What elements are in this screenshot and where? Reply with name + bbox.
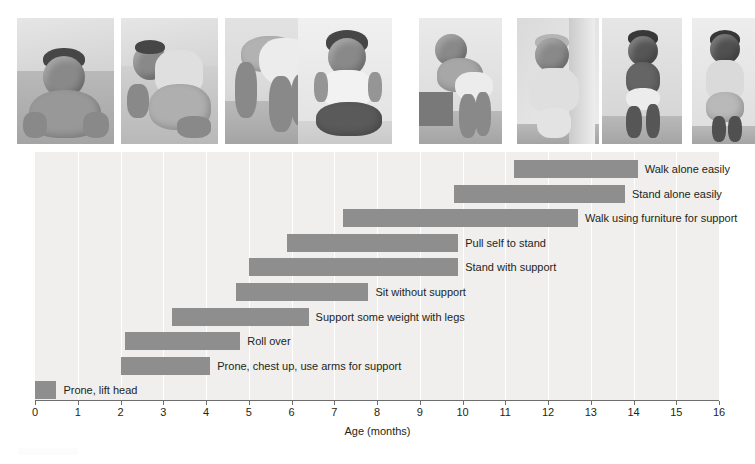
photo-roll-over — [121, 18, 218, 144]
milestone-label: Walk using furniture for support — [585, 210, 737, 226]
x-tick-label-10: 10 — [448, 406, 478, 418]
x-tick-label-13: 13 — [576, 406, 606, 418]
x-tick-month-4 — [206, 401, 207, 405]
x-axis-title: Age (months) — [0, 425, 755, 437]
photo-strip — [0, 0, 755, 150]
x-tick-month-13 — [591, 401, 592, 405]
milestone-bar — [249, 258, 458, 276]
x-tick-label-9: 9 — [405, 406, 435, 418]
milestone-bar — [514, 160, 638, 178]
x-tick-label-3: 3 — [148, 406, 178, 418]
x-tick-month-6 — [292, 401, 293, 405]
x-tick-month-14 — [634, 401, 635, 405]
milestone-bar — [172, 308, 309, 326]
x-tick-month-8 — [377, 401, 378, 405]
milestone-label: Stand alone easily — [632, 186, 722, 202]
x-tick-month-11 — [505, 401, 506, 405]
x-tick-label-14: 14 — [619, 406, 649, 418]
milestone-label: Prone, lift head — [63, 382, 137, 398]
milestone-label: Stand with support — [465, 259, 556, 275]
x-tick-month-15 — [676, 401, 677, 405]
milestone-row: Roll over — [35, 332, 719, 356]
milestone-bar — [454, 185, 625, 203]
milestone-bar — [35, 381, 56, 399]
photo-prone-lift-head — [17, 18, 114, 144]
milestone-row: Prone, chest up, use arms for support — [35, 357, 719, 381]
milestone-row: Walk using furniture for support — [35, 209, 719, 233]
photo-stand-with-support — [517, 18, 599, 144]
milestone-label: Sit without support — [375, 284, 466, 300]
x-tick-month-12 — [548, 401, 549, 405]
x-tick-month-2 — [121, 401, 122, 405]
x-tick-month-3 — [163, 401, 164, 405]
milestone-row: Support some weight with legs — [35, 308, 719, 332]
milestone-row: Stand with support — [35, 258, 719, 282]
milestone-bar — [236, 283, 369, 301]
x-tick-month-10 — [463, 401, 464, 405]
x-tick-month-5 — [249, 401, 250, 405]
x-tick-label-16: 16 — [704, 406, 734, 418]
x-tick-label-4: 4 — [191, 406, 221, 418]
milestone-label: Pull self to stand — [465, 235, 546, 251]
photo-pull-self-to-stand — [419, 18, 502, 144]
photo-walk-with-help — [602, 18, 682, 144]
milestone-row: Sit without support — [35, 283, 719, 307]
x-tick-month-1 — [78, 401, 79, 405]
x-tick-label-1: 1 — [63, 406, 93, 418]
x-tick-label-11: 11 — [490, 406, 520, 418]
x-tick-label-7: 7 — [319, 406, 349, 418]
milestone-bar — [343, 209, 578, 227]
photo-walk-alone — [692, 18, 755, 144]
x-tick-label-15: 15 — [661, 406, 691, 418]
x-tick-label-5: 5 — [234, 406, 264, 418]
milestone-bar — [287, 234, 458, 252]
figure-root: Walk alone easilyStand alone easilyWalk … — [0, 0, 755, 464]
corner-artifact — [18, 448, 78, 455]
x-tick-month-7 — [334, 401, 335, 405]
milestone-bar — [121, 357, 211, 375]
milestone-row: Pull self to stand — [35, 234, 719, 258]
milestone-row: Stand alone easily — [35, 185, 719, 209]
milestone-bar — [125, 332, 240, 350]
milestone-label: Walk alone easily — [645, 161, 730, 177]
photo-sit-without-support — [298, 18, 392, 144]
bars-layer: Walk alone easilyStand alone easilyWalk … — [35, 152, 719, 400]
milestone-label: Roll over — [247, 333, 290, 349]
milestone-label: Prone, chest up, use arms for support — [217, 358, 401, 374]
x-tick-label-8: 8 — [362, 406, 392, 418]
milestone-row: Walk alone easily — [35, 160, 719, 184]
x-tick-label-2: 2 — [106, 406, 136, 418]
milestone-label: Support some weight with legs — [316, 309, 465, 325]
x-tick-month-0 — [35, 401, 36, 405]
x-tick-month-16 — [719, 401, 720, 405]
x-tick-label-0: 0 — [20, 406, 50, 418]
x-tick-month-9 — [420, 401, 421, 405]
x-tick-label-12: 12 — [533, 406, 563, 418]
x-tick-label-6: 6 — [277, 406, 307, 418]
